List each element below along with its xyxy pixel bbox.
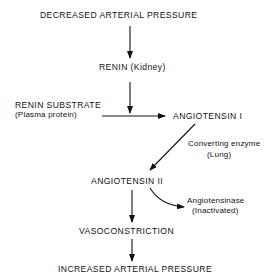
node-renin-substrate-note: (Plasma protein)	[15, 110, 77, 120]
label-converting-enzyme: Converting enzyme	[188, 139, 260, 149]
node-renin: RENIN (Kidney)	[99, 62, 166, 72]
node-angiotensin-2: ANGIOTENSIN II	[91, 176, 163, 186]
node-renin-substrate: RENIN SUBSTRATE	[15, 100, 101, 110]
label-converting-enzyme-note: (Lung)	[207, 150, 231, 160]
node-angiotensin-1: ANGIOTENSIN I	[173, 111, 242, 121]
node-vasoconstriction: VASOCONSTRICTION	[79, 226, 174, 236]
node-increased-pressure: INCREASED ARTERIAL PRESSURE	[58, 264, 212, 274]
node-angiotensinase-note: (Inactivated)	[192, 206, 239, 216]
arrow-angiotensin-2-to-angiotensinase	[150, 188, 184, 207]
node-decreased-pressure: DECREASED ARTERIAL PRESSURE	[40, 10, 197, 20]
renin-angiotensin-diagram: DECREASED ARTERIAL PRESSURE RENIN (Kidne…	[0, 0, 278, 278]
node-angiotensinase: Angiotensinase	[187, 196, 245, 206]
